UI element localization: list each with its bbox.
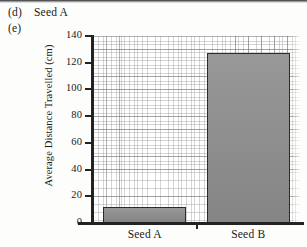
y-tick-100 xyxy=(85,88,91,90)
y-tick-140 xyxy=(85,35,91,37)
y-tick-80 xyxy=(85,115,91,117)
y-tick-60 xyxy=(85,142,91,144)
x-axis-line xyxy=(78,222,304,225)
y-tick-120 xyxy=(85,62,91,64)
bar-seed-b xyxy=(207,53,290,223)
x-label-seed-a: Seed A xyxy=(93,228,197,240)
plot-area xyxy=(93,36,300,223)
y-axis-title: Average Distance Travelled (cm) xyxy=(43,21,54,211)
y-tick-label-100: 100 xyxy=(52,82,82,93)
bar-chart: 020406080100120140 Seed ASeed B Average … xyxy=(0,0,307,247)
y-tick-label-140: 140 xyxy=(52,29,82,40)
y-tick-label-20: 20 xyxy=(52,189,82,200)
bar-seed-a xyxy=(103,207,186,223)
y-tick-label-40: 40 xyxy=(52,163,82,174)
y-tick-20 xyxy=(85,195,91,197)
y-tick-label-80: 80 xyxy=(52,109,82,120)
y-tick-0 xyxy=(85,222,91,224)
y-tick-label-60: 60 xyxy=(52,136,82,147)
worksheet-page: (d) Seed A (e) 020406080100120140 Seed A… xyxy=(0,0,307,247)
bar-sheen xyxy=(208,54,289,222)
bar-sheen xyxy=(104,208,185,222)
x-label-seed-b: Seed B xyxy=(197,228,301,240)
y-axis-line xyxy=(91,35,94,224)
y-tick-label-120: 120 xyxy=(52,56,82,67)
y-tick-label-0: 0 xyxy=(52,216,82,227)
grid-right-fade xyxy=(290,36,300,223)
y-tick-40 xyxy=(85,169,91,171)
